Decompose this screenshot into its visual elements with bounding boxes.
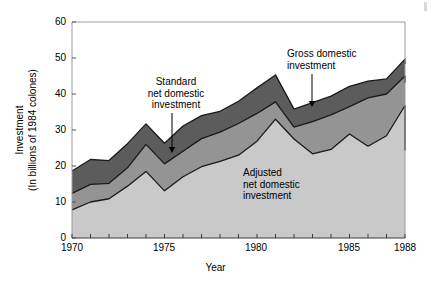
x-tick-1970: 1970 bbox=[52, 243, 92, 253]
y-tick-60: 60 bbox=[44, 17, 66, 27]
y-axis-title-line1: Investment bbox=[13, 69, 26, 191]
y-tick-40: 40 bbox=[44, 89, 66, 99]
y-axis-title-line2: (In billions of 1984 colones) bbox=[26, 69, 39, 191]
x-axis-title: Year bbox=[0, 262, 431, 273]
annotation-standard-net-domestic-investment: Standard net domestic investment bbox=[133, 76, 219, 111]
x-tick-1980: 1980 bbox=[236, 243, 276, 253]
investment-area-chart: Investment (In billions of 1984 colones)… bbox=[0, 0, 431, 284]
annotation-line: Adjusted bbox=[243, 167, 339, 179]
annotation-line: investment bbox=[243, 190, 339, 202]
y-tick-10: 10 bbox=[44, 197, 66, 207]
annotation-line: net domestic bbox=[243, 179, 339, 191]
x-tick-1988: 1988 bbox=[385, 243, 425, 253]
annotation-gross-domestic-investment: Gross domestic investment bbox=[287, 48, 397, 71]
annotation-adjusted-net-domestic-investment: Adjusted net domestic investment bbox=[243, 167, 339, 202]
y-tick-20: 20 bbox=[44, 161, 66, 171]
x-tick-1975: 1975 bbox=[144, 243, 184, 253]
annotation-line: investment bbox=[287, 60, 397, 72]
y-tick-50: 50 bbox=[44, 53, 66, 63]
y-tick-30: 30 bbox=[44, 125, 66, 135]
x-tick-1985: 1985 bbox=[329, 243, 369, 253]
annotation-line: Gross domestic bbox=[287, 48, 397, 60]
annotation-line: net domestic bbox=[133, 88, 219, 100]
annotation-line: Standard bbox=[133, 76, 219, 88]
annotation-line: investment bbox=[133, 99, 219, 111]
y-axis-title: Investment (In billions of 1984 colones) bbox=[8, 22, 44, 238]
